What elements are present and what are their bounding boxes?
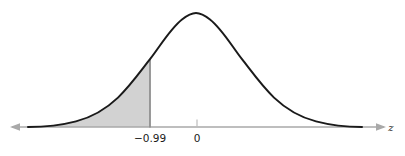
axis-right-arrow-icon [376,123,386,131]
axis-variable-label: z [387,122,394,133]
normal-density-curve [28,13,362,127]
tick-label-zero: 0 [194,132,201,144]
axis-left-arrow-icon [10,123,20,131]
normal-distribution-figure: −0.99 0 z [0,0,405,156]
tick-label-z-value: −0.99 [134,132,166,144]
